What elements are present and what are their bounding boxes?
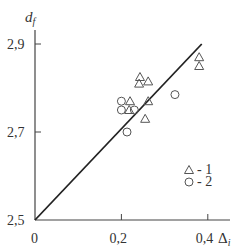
circle-marker: [117, 106, 125, 114]
y-tick-label: 2,7: [7, 125, 25, 140]
legend-label: - 2: [197, 174, 212, 189]
scatter-chart: 2,52,72,9 00,20,4 df Δi - 1- 2: [0, 0, 244, 248]
y-axis-title: df: [25, 9, 37, 27]
y-ticks: 2,52,72,9: [7, 37, 41, 228]
circle-marker: [117, 97, 125, 105]
triangle-marker: [141, 114, 150, 122]
legend-circle-icon: [185, 178, 193, 186]
triangle-marker: [126, 97, 135, 105]
x-tick-label: 0: [31, 231, 38, 246]
legend: - 1- 2: [185, 162, 213, 189]
legend-triangle-icon: [185, 166, 194, 174]
data-points: [117, 53, 203, 136]
circle-marker: [123, 128, 131, 136]
x-tick-label: 0,2: [109, 231, 127, 246]
x-axis-title: Δi: [218, 230, 231, 248]
axes: 2,52,72,9 00,20,4 df Δi: [7, 9, 231, 248]
x-tick-label: 0,4: [196, 231, 214, 246]
triangle-marker: [195, 62, 204, 70]
triangle-marker: [195, 53, 204, 61]
reference-line: [35, 44, 202, 220]
x-ticks: 00,20,4: [31, 214, 213, 246]
y-tick-label: 2,5: [7, 213, 25, 228]
y-tick-label: 2,9: [7, 37, 25, 52]
triangle-marker: [135, 73, 144, 81]
circle-marker: [171, 91, 179, 99]
